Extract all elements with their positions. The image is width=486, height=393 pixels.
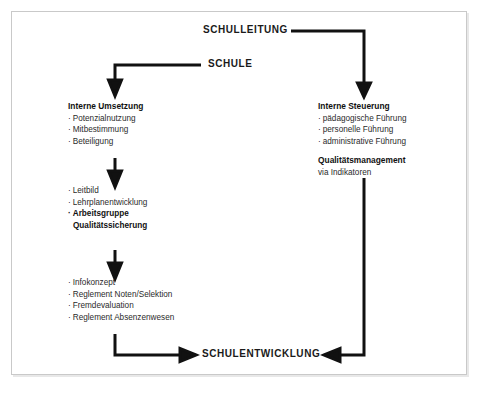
list-item-label: Leitbild	[73, 186, 99, 195]
wire-qualitaetsmanagement-to-schulentwicklung	[337, 178, 364, 355]
list-item-label: Arbeitsgruppe	[73, 209, 129, 218]
list-item-label: Mitbestimmung	[73, 125, 129, 134]
wire-schule-to-umsetzung	[115, 65, 201, 83]
node-schule: SCHULE	[208, 58, 252, 69]
list-item-label: pädagogische Führung	[323, 114, 407, 123]
arrowhead-steuerung	[358, 83, 371, 97]
bullet-icon: ·	[68, 186, 71, 195]
list-item: ·Mitbestimmung	[68, 124, 143, 136]
list-item: ·Reglement Absenzenwesen	[68, 312, 174, 324]
diagram-canvas: SCHULLEITUNG SCHULE SCHULENTWICKLUNG Int…	[0, 0, 486, 393]
bullet-icon: ·	[68, 198, 71, 207]
list-item-label: Potenzialnutzung	[73, 114, 136, 123]
bullet-icon: ·	[68, 209, 71, 218]
list-item: ·Leitbild	[68, 185, 147, 197]
arrowhead-schulentwicklung-left	[180, 349, 196, 362]
bullet-icon: ·	[68, 278, 71, 287]
wire-schulleitung-to-steuerung	[291, 31, 364, 86]
group-interne-steuerung: Interne Steuerung ·pädagogische Führung …	[318, 101, 407, 147]
list-item: ·Potenzialnutzung	[68, 113, 143, 125]
heading-interne-steuerung: Interne Steuerung	[318, 101, 407, 113]
heading-qualitaetsmanagement: Qualitätsmanagement	[318, 155, 406, 167]
list-item-label: personelle Führung	[323, 125, 394, 134]
bullet-icon: ·	[68, 313, 71, 322]
list-item-continuation: Qualitätssicherung	[68, 220, 147, 232]
heading-interne-umsetzung: Interne Umsetzung	[68, 101, 143, 113]
node-schulleitung: SCHULLEITUNG	[203, 24, 288, 35]
bullet-icon: ·	[318, 125, 321, 134]
group-interne-umsetzung: Interne Umsetzung ·Potenzialnutzung ·Mit…	[68, 101, 143, 147]
list-item-label: Fremdevaluation	[73, 301, 134, 310]
list-item-label: Beteiligung	[73, 137, 114, 146]
group-infokonzept: ·Infokonzept ·Reglement Noten/Selektion …	[68, 277, 174, 323]
list-item-label: Reglement Absenzenwesen	[73, 313, 175, 322]
bullet-icon: ·	[68, 137, 71, 146]
list-item-label: Reglement Noten/Selektion	[73, 290, 173, 299]
list-item: ·Reglement Noten/Selektion	[68, 289, 174, 301]
qualitaetsmanagement-subtitle: via Indikatoren	[318, 167, 406, 179]
list-item: ·personelle Führung	[318, 124, 407, 136]
bullet-icon: ·	[68, 125, 71, 134]
list-item: ·Beteiligung	[68, 136, 143, 148]
list-item-label: Lehrplanentwicklung	[73, 198, 148, 207]
arrowhead-umsetzung	[109, 80, 122, 96]
group-qualitaetsmanagement: Qualitätsmanagement via Indikatoren	[318, 155, 406, 178]
bullet-icon: ·	[68, 290, 71, 299]
list-item-label: administrative Führung	[323, 137, 406, 146]
list-item: ·Lehrplanentwicklung	[68, 197, 147, 209]
bullet-icon: ·	[68, 301, 71, 310]
bullet-icon: ·	[68, 114, 71, 123]
list-item: ·Arbeitsgruppe	[68, 208, 147, 220]
wire-infokonzept-to-schulentwicklung	[115, 334, 183, 355]
arrowhead-schulentwicklung-right	[324, 349, 340, 362]
list-item: ·Fremdevaluation	[68, 300, 174, 312]
list-item-label: Infokonzept	[73, 278, 115, 287]
bullet-icon: ·	[318, 114, 321, 123]
list-item: ·administrative Führung	[318, 136, 407, 148]
node-schulentwicklung: SCHULENTWICKLUNG	[202, 348, 320, 359]
list-item-label: Qualitätssicherung	[73, 221, 147, 230]
group-leitbild: ·Leitbild ·Lehrplanentwicklung ·Arbeitsg…	[68, 185, 147, 231]
list-item: ·Infokonzept	[68, 277, 174, 289]
list-item: ·pädagogische Führung	[318, 113, 407, 125]
bullet-icon: ·	[318, 137, 321, 146]
